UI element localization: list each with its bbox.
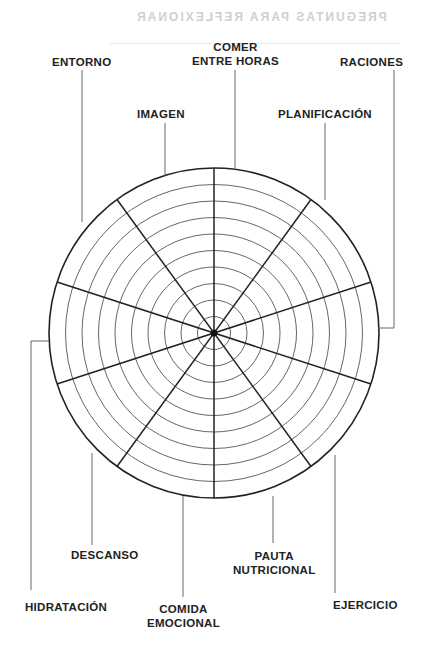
label-planificacion: PLANIFICACIÓN — [278, 107, 372, 121]
label-descanso: DESCANSO — [71, 548, 139, 562]
label-line-2: ENTRE HORAS — [192, 54, 279, 68]
label-imagen: IMAGEN — [137, 107, 185, 121]
wheel-diagram — [0, 0, 425, 657]
label-line-1: PAUTA — [233, 549, 316, 563]
label-line-1: COMER — [192, 40, 279, 54]
label-hidratacion: HIDRATACIÓN — [25, 600, 107, 614]
label-comer-entre-horas: COMER ENTRE HORAS — [192, 40, 279, 68]
label-line-1: COMIDA — [147, 602, 220, 616]
label-ejercicio: EJERCICIO — [333, 598, 398, 612]
label-comida-emocional: COMIDA EMOCIONAL — [147, 602, 220, 630]
label-line-2: NUTRICIONAL — [233, 563, 316, 577]
label-entorno: ENTORNO — [52, 55, 111, 69]
label-line-2: EMOCIONAL — [147, 616, 220, 630]
label-raciones: RACIONES — [340, 55, 403, 69]
wheel-center-dot — [211, 330, 218, 337]
label-pauta-nutricional: PAUTA NUTRICIONAL — [233, 549, 316, 577]
